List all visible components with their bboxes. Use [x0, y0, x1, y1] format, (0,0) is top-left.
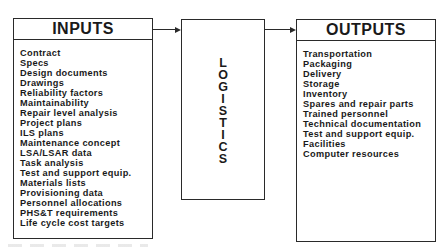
output-item: Computer resources [303, 149, 435, 159]
input-item: LSA/LSAR data [20, 148, 152, 158]
output-item: Facilities [303, 139, 435, 149]
output-item: Trained personnel [303, 109, 435, 119]
inputs-list: ContractSpecsDesign documentsDrawingsRel… [14, 40, 152, 228]
input-item: Materials lists [20, 178, 152, 188]
input-item: Task analysis [20, 158, 152, 168]
outputs-box: OUTPUTS TransportationPackagingDeliveryS… [296, 19, 436, 242]
input-item: Repair level analysis [20, 108, 152, 118]
output-item: Technical documentation [303, 119, 435, 129]
output-item: Test and support equip. [303, 129, 435, 139]
input-item: Reliability factors [20, 88, 152, 98]
logistics-letter: S [219, 153, 227, 165]
logistics-title: LOGISTICS [182, 57, 264, 165]
input-item: Maintainability [20, 98, 152, 108]
output-item: Spares and repair parts [303, 99, 435, 109]
input-item: Drawings [20, 78, 152, 88]
input-item: Provisioning data [20, 188, 152, 198]
input-item: Contract [20, 48, 152, 58]
output-item: Transportation [303, 49, 435, 59]
logistics-to-outputs-line [265, 29, 290, 30]
logistics-box: LOGISTICS [181, 19, 265, 200]
input-item: ILS plans [20, 128, 152, 138]
outputs-title: OUTPUTS [297, 20, 435, 41]
input-item: Specs [20, 58, 152, 68]
output-item: Packaging [303, 59, 435, 69]
input-item: Project plans [20, 118, 152, 128]
input-item: Life cycle cost targets [20, 218, 152, 228]
faint-caption-strip [8, 244, 148, 247]
inputs-title: INPUTS [14, 19, 152, 40]
input-item: Test and support equip. [20, 168, 152, 178]
output-item: Inventory [303, 89, 435, 99]
inputs-to-logistics-line [153, 29, 175, 30]
outputs-list: TransportationPackagingDeliveryStorageIn… [297, 41, 435, 159]
inputs-box: INPUTS ContractSpecsDesign documentsDraw… [13, 18, 153, 239]
input-item: Maintenance concept [20, 138, 152, 148]
input-item: Design documents [20, 68, 152, 78]
output-item: Delivery [303, 69, 435, 79]
output-item: Storage [303, 79, 435, 89]
input-item: PHS&T requirements [20, 208, 152, 218]
input-item: Personnel allocations [20, 198, 152, 208]
